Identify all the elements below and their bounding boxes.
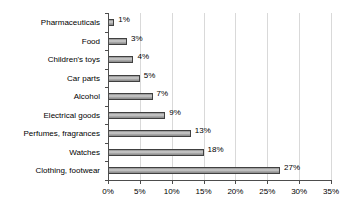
- bar-row: 5%: [108, 69, 331, 88]
- y-axis-tick: [105, 180, 108, 181]
- category-label: Clothing, footwear: [0, 165, 104, 176]
- x-axis-tick: [267, 181, 268, 184]
- bar[interactable]: [108, 112, 165, 119]
- bar-value-label: 7%: [157, 88, 169, 100]
- bar[interactable]: [108, 167, 280, 174]
- bar-value-label: 5%: [144, 70, 156, 82]
- bar[interactable]: [108, 56, 133, 63]
- x-axis-tick-label: 15%: [196, 186, 212, 197]
- y-axis-tick: [105, 50, 108, 51]
- y-axis-tick: [105, 106, 108, 107]
- x-axis-tick-label: 10%: [164, 186, 180, 197]
- y-axis-tick: [105, 143, 108, 144]
- bar-row: 18%: [108, 143, 331, 162]
- bar-value-label: 27%: [284, 162, 300, 174]
- y-axis-tick: [105, 87, 108, 88]
- category-label: Pharmaceuticals: [0, 17, 104, 28]
- bar-row: 9%: [108, 106, 331, 125]
- category-label: Food: [0, 36, 104, 47]
- bar-value-label: 1%: [118, 14, 130, 26]
- bar[interactable]: [108, 38, 127, 45]
- category-label: Alcohol: [0, 91, 104, 102]
- x-axis-tick-label: 20%: [227, 186, 243, 197]
- x-axis-tick-label: 0%: [102, 186, 114, 197]
- bar[interactable]: [108, 130, 191, 137]
- bar-value-label: 18%: [208, 144, 224, 156]
- bar[interactable]: [108, 93, 153, 100]
- x-axis-tick-label: 35%: [323, 186, 339, 197]
- bar-row: 3%: [108, 32, 331, 51]
- category-label: Children's toys: [0, 54, 104, 65]
- y-axis-tick: [105, 32, 108, 33]
- x-axis-tick-label: 5%: [134, 186, 146, 197]
- category-label: Watches: [0, 147, 104, 158]
- x-axis-tick: [140, 181, 141, 184]
- x-axis-tick: [331, 181, 332, 184]
- bar-value-label: 4%: [137, 51, 149, 63]
- x-axis-tick-label: 30%: [291, 186, 307, 197]
- bar[interactable]: [108, 75, 140, 82]
- x-axis-tick: [172, 181, 173, 184]
- bar[interactable]: [108, 149, 204, 156]
- bar-row: 27%: [108, 161, 331, 180]
- category-axis-labels: PharmaceuticalsFoodChildren's toysCar pa…: [0, 13, 104, 180]
- x-axis-tick: [204, 181, 205, 184]
- category-label: Car parts: [0, 73, 104, 84]
- bar-row: 7%: [108, 87, 331, 106]
- bar-row: 4%: [108, 50, 331, 69]
- bar-chart: 1%3%4%5%7%9%13%18%27% PharmaceuticalsFoo…: [0, 0, 354, 213]
- x-axis-tick: [108, 181, 109, 184]
- x-axis-tick: [299, 181, 300, 184]
- y-axis-tick: [105, 13, 108, 14]
- bar-value-label: 9%: [169, 107, 181, 119]
- y-axis-tick: [105, 69, 108, 70]
- bar-value-label: 13%: [195, 125, 211, 137]
- bar-value-label: 3%: [131, 33, 143, 45]
- y-axis-line: [108, 13, 109, 181]
- x-axis-tick: [235, 181, 236, 184]
- y-axis-tick: [105, 124, 108, 125]
- category-label: Electrical goods: [0, 110, 104, 121]
- gridline: [331, 13, 332, 180]
- y-axis-tick: [105, 161, 108, 162]
- bar-row: 13%: [108, 124, 331, 143]
- x-axis-tick-label: 25%: [259, 186, 275, 197]
- category-label: Perfumes, fragrances: [0, 128, 104, 139]
- plot-area: 1%3%4%5%7%9%13%18%27%: [108, 13, 331, 180]
- bar-row: 1%: [108, 13, 331, 32]
